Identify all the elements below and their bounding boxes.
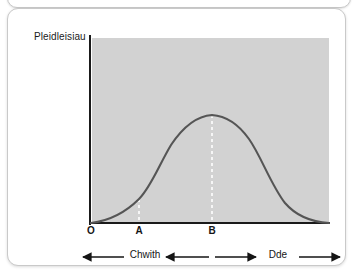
distribution-curve-svg <box>89 35 330 225</box>
x-tick-label-row: O A B <box>8 225 359 241</box>
page-background: Pleidleisiau O A B <box>0 0 359 276</box>
tick-label-a: A <box>135 225 142 236</box>
direction-label-dde: Dde <box>267 249 289 260</box>
direction-legend-row: Chwith Dde <box>8 248 359 266</box>
votes-distribution-curve <box>91 115 329 223</box>
direction-label-chwith: Chwith <box>128 249 163 260</box>
card-above-partial <box>7 0 351 8</box>
direction-arrows-svg <box>8 248 359 266</box>
tick-label-o: O <box>87 225 95 236</box>
tick-label-b: B <box>208 225 215 236</box>
y-axis-label: Pleidleisiau <box>34 31 86 42</box>
figure-card: Pleidleisiau O A B <box>7 8 346 266</box>
